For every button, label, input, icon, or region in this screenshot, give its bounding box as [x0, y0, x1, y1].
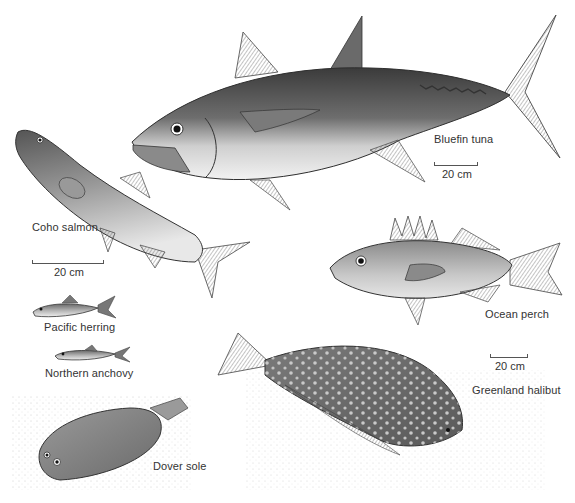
greenland-halibut-label: Greenland halibut: [472, 384, 561, 396]
bluefin-tuna-label: Bluefin tuna: [434, 133, 493, 145]
dover-sole-label: Dover sole: [153, 460, 207, 472]
fish-illustration: [0, 0, 575, 503]
coho-salmon-label: Coho salmon: [32, 221, 98, 233]
bluefin-tuna-scale-label: 20 cm: [442, 168, 472, 180]
greenland-halibut-scale-label: 20 cm: [495, 360, 525, 372]
ocean-perch-label: Ocean perch: [485, 308, 549, 320]
pacific-herring-label: Pacific herring: [44, 321, 115, 333]
scale-bar-line: [490, 354, 528, 358]
bluefin-tuna-drawing: [132, 15, 560, 210]
pacific-herring-drawing: [33, 295, 116, 318]
northern-anchovy-drawing: [55, 345, 130, 362]
scale-bar-line: [434, 162, 478, 166]
dover-sole-drawing: [12, 395, 192, 490]
scale-bar-line: [32, 260, 104, 264]
coho-salmon-scale-label: 20 cm: [54, 266, 84, 278]
northern-anchovy-label: Northern anchovy: [45, 367, 133, 379]
